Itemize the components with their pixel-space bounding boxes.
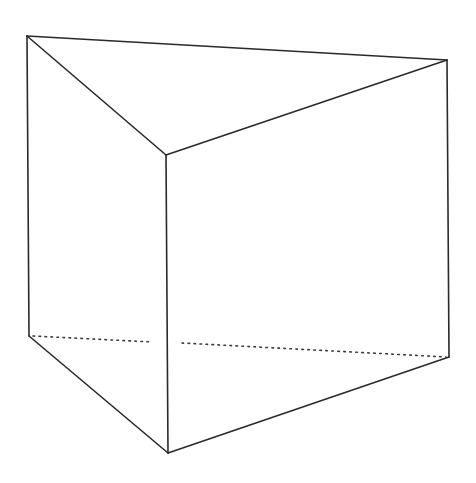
left-vertical-edge <box>27 36 29 336</box>
right-vertical-edge <box>447 60 449 357</box>
top-back-edge <box>27 36 447 60</box>
bottom-left-edge <box>29 336 168 453</box>
triangular-prism-diagram <box>0 0 476 483</box>
hidden-edges <box>33 336 446 357</box>
front-vertical-edge <box>166 155 168 453</box>
top-left-edge <box>27 36 166 155</box>
visible-edges <box>27 36 449 453</box>
bottom-back-hidden-edge-right <box>182 343 446 357</box>
bottom-right-edge <box>168 357 449 453</box>
top-right-edge <box>166 60 447 155</box>
bottom-back-hidden-edge-left <box>33 336 152 342</box>
